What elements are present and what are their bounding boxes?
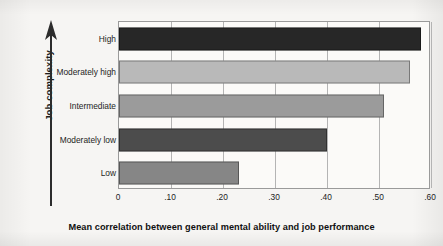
category-label-low: Low — [54, 168, 116, 178]
x-tick-label: .20 — [216, 192, 228, 202]
y-axis-category-labels: High Moderately high Intermediate Modera… — [54, 22, 116, 188]
category-label-moderately-high: Moderately high — [54, 67, 116, 77]
x-axis-title: Mean correlation between general mental … — [0, 222, 443, 232]
bar — [119, 61, 410, 84]
bar-chart-figure: Job complexity High Moderately high Inte… — [0, 0, 443, 246]
x-tick-label: 0 — [116, 192, 121, 202]
gridline — [431, 22, 432, 188]
plot-area — [118, 21, 430, 189]
x-tick-label: .30 — [268, 192, 280, 202]
bar — [119, 27, 421, 50]
x-tick-label: .40 — [320, 192, 332, 202]
bar — [119, 95, 384, 118]
category-label-moderately-low: Moderately low — [54, 135, 116, 145]
x-tick-label: .10 — [164, 192, 176, 202]
x-axis-tick-labels: 0.10.20.30.40.50.60 — [118, 192, 430, 206]
category-label-intermediate: Intermediate — [54, 101, 116, 111]
category-label-high: High — [54, 34, 116, 44]
x-tick-label: .50 — [372, 192, 384, 202]
bar — [119, 128, 327, 151]
bar — [119, 162, 239, 185]
x-tick-label: .60 — [424, 192, 436, 202]
